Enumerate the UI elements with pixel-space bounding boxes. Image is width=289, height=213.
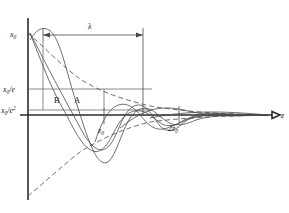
label-lambda: λ [87,22,92,31]
label-z-axis: z [280,111,285,120]
label-region-b: B [54,95,60,105]
label-x0: x0 [9,30,17,40]
reference-lines-group [28,89,152,110]
damped-curve-a [30,33,268,150]
damped-curve-b [30,33,268,152]
label-region-a: A [74,95,81,105]
label-z0: z0 [97,126,104,136]
oscillation-group [30,28,268,162]
z-axis-arrow-icon [272,111,280,118]
label-x0-over-e2: x0/e2 [0,105,16,116]
lambda-arrow-left-icon [43,32,50,37]
damped-oscillation-figure: x0 x0/e x0/e2 λ A B z0 2z0 z [0,0,289,213]
label-2z0: 2z0 [168,124,178,134]
damped-curve-c [30,28,268,162]
lambda-arrow-right-icon [136,32,143,37]
label-x0-over-e: x0/e [2,85,15,95]
envelope-upper-curve [28,33,268,115]
envelope-lower-curve [28,115,268,196]
